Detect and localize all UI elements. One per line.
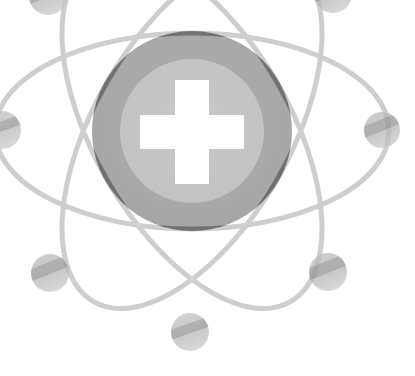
electron-bottom (171, 313, 209, 351)
electron-right (364, 112, 400, 148)
watermark-canvas (0, 0, 415, 376)
atom-medical-illustration (0, 0, 415, 376)
